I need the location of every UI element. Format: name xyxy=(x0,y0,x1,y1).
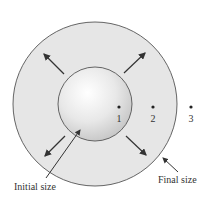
point-1-label: 1 xyxy=(117,113,122,124)
initial-size-label: Initial size xyxy=(14,181,56,192)
final-size-label: Final size xyxy=(158,174,197,185)
point-3 xyxy=(189,105,192,108)
point-2-label: 2 xyxy=(151,113,156,124)
inner-circle-initial xyxy=(58,67,132,141)
expansion-diagram: 1 2 3 Initial size Final size xyxy=(0,0,208,197)
point-1 xyxy=(117,105,120,108)
point-2 xyxy=(151,105,154,108)
final-size-pointer-icon xyxy=(163,158,178,172)
point-3-label: 3 xyxy=(189,113,194,124)
